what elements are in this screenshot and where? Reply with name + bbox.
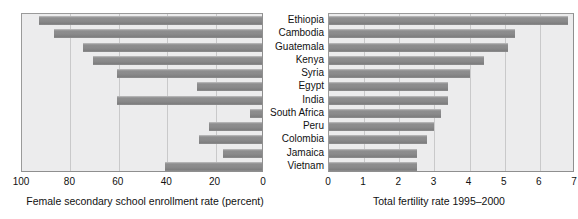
bar-row (22, 96, 262, 105)
x-axis-title-enrollment: Female secondary school enrollment rate … (0, 195, 290, 207)
plot-area-fertility (328, 13, 574, 172)
x-tick-label: 5 (501, 176, 507, 187)
bar-row (22, 69, 262, 78)
plot-area-enrollment (21, 13, 263, 172)
bar-row (22, 43, 262, 52)
bar-row (22, 16, 262, 25)
bar (117, 96, 262, 105)
bar (329, 122, 434, 131)
bar-row (22, 162, 262, 171)
bar (197, 82, 262, 91)
bar (329, 109, 441, 118)
x-tick-label: 7 (571, 176, 577, 187)
bar-row (22, 56, 262, 65)
x-tick-label: 100 (13, 176, 30, 187)
bar (223, 149, 262, 158)
bar-row (22, 29, 262, 38)
bar-row (329, 135, 573, 144)
country-label: Vietnam (287, 160, 324, 171)
x-tick-label: 0 (325, 176, 331, 187)
country-label: Peru (303, 120, 324, 131)
bar (250, 109, 262, 118)
x-axis-ticks-fertility: 01234567 (328, 176, 574, 188)
bar-row (22, 109, 262, 118)
x-tick-label: 6 (536, 176, 542, 187)
country-label: India (302, 94, 324, 105)
bar-row (22, 122, 262, 131)
bar (329, 56, 484, 65)
bar-row (22, 82, 262, 91)
bar-row (329, 149, 573, 158)
bar-row (329, 56, 573, 65)
bar (329, 135, 427, 144)
bar (329, 29, 515, 38)
bar-row (329, 29, 573, 38)
x-tick-label: 4 (466, 176, 472, 187)
bar-row (329, 96, 573, 105)
bar (117, 69, 262, 78)
figure-chart-pair: EthiopiaCambodiaGuatemalaKenyaSyriaEgypt… (0, 0, 578, 219)
country-label: South Africa (270, 107, 324, 118)
country-label: Cambodia (278, 27, 324, 38)
bar (93, 56, 262, 65)
bar-row (329, 109, 573, 118)
bar-row (329, 162, 573, 171)
bars-enrollment (22, 14, 262, 171)
x-axis-title-fertility: Total fertility rate 1995–2000 (300, 195, 578, 207)
x-tick-label: 1 (360, 176, 366, 187)
bar-row (329, 43, 573, 52)
x-tick-label: 40 (161, 176, 172, 187)
bar-row (22, 135, 262, 144)
x-tick-label: 3 (431, 176, 437, 187)
x-tick-label: 20 (209, 176, 220, 187)
bar-row (329, 122, 573, 131)
bar-row (329, 69, 573, 78)
x-axis-ticks-enrollment: 100806040200 (21, 176, 263, 188)
country-label: Colombia (282, 133, 324, 144)
country-label: Syria (301, 67, 324, 78)
bar (329, 149, 417, 158)
bar (54, 29, 262, 38)
bar-row (329, 16, 573, 25)
country-label: Kenya (296, 54, 324, 65)
bar (329, 82, 448, 91)
bar (329, 69, 470, 78)
bar (209, 122, 262, 131)
bar-row (22, 149, 262, 158)
bars-fertility (329, 14, 573, 171)
x-tick-label: 0 (260, 176, 266, 187)
bar (329, 43, 508, 52)
country-label: Egypt (298, 80, 324, 91)
bar (39, 16, 262, 25)
bar (199, 135, 262, 144)
bar (329, 96, 448, 105)
country-label: Guatemala (275, 41, 324, 52)
category-axis-labels: EthiopiaCambodiaGuatemalaKenyaSyriaEgypt… (263, 13, 328, 172)
bar (329, 16, 568, 25)
x-tick-label: 2 (396, 176, 402, 187)
bar (165, 162, 262, 171)
x-tick-label: 80 (64, 176, 75, 187)
bar-row (329, 82, 573, 91)
bar (83, 43, 262, 52)
country-label: Jamaica (287, 147, 324, 158)
x-tick-label: 60 (112, 176, 123, 187)
country-label: Ethiopia (288, 14, 324, 25)
bar (329, 162, 417, 171)
